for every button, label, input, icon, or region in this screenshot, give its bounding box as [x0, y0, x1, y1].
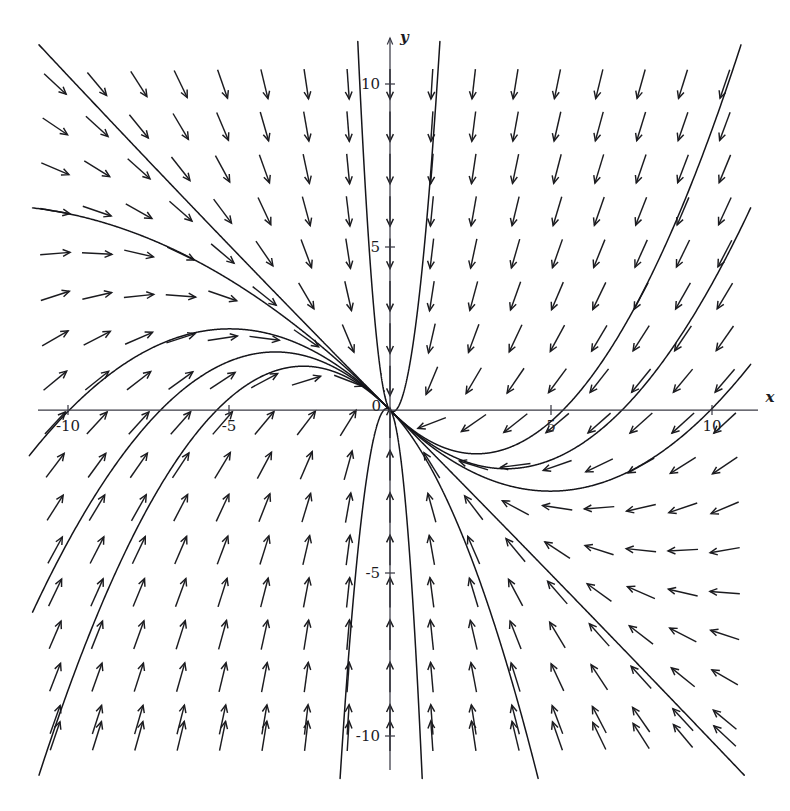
field-arrow [592, 325, 607, 351]
field-arrow [135, 722, 144, 751]
field-arrow [44, 74, 66, 94]
field-arrow [591, 665, 607, 690]
field-arrow [711, 502, 739, 514]
field-arrow [468, 324, 479, 352]
field-arrow [504, 414, 527, 433]
field-arrow [510, 239, 520, 268]
x-tick-label: -5 [222, 417, 237, 435]
field-arrow [635, 197, 646, 225]
field-arrow [49, 579, 62, 606]
field-arrow [176, 578, 187, 606]
field-arrow [304, 721, 311, 751]
field-arrow [218, 578, 228, 607]
field-arrow [629, 626, 653, 644]
field-arrow [594, 112, 603, 141]
field-arrow [468, 578, 478, 607]
field-arrow [426, 367, 438, 395]
field-arrow [44, 371, 67, 390]
field-arrow [589, 624, 609, 646]
field-arrow [166, 293, 196, 300]
field-arrow [427, 281, 434, 311]
field-arrow [215, 453, 231, 479]
solution-curve [39, 366, 390, 775]
field-arrow [631, 666, 651, 688]
field-arrow [552, 722, 563, 750]
field-arrow [509, 579, 523, 605]
field-arrow [345, 281, 353, 310]
field-arrow [428, 662, 435, 692]
direction-field-figure: -10-5510105-5-100xy [0, 0, 790, 811]
field-arrow [128, 159, 150, 179]
direction-field-canvas: -10-5510105-5-100xy [0, 0, 790, 811]
field-arrow [342, 324, 354, 352]
field-arrow [552, 154, 561, 183]
field-arrow [550, 622, 566, 648]
field-arrow [552, 197, 562, 226]
field-arrow [468, 536, 480, 564]
field-arrow [346, 535, 353, 565]
field-arrow [345, 154, 352, 184]
field-arrow [130, 453, 147, 478]
field-arrow [88, 453, 106, 477]
field-arrow [719, 155, 731, 183]
field-arrow [712, 670, 738, 685]
field-arrow [718, 240, 732, 267]
field-arrow [626, 546, 656, 553]
field-arrow [83, 206, 111, 217]
field-arrow [302, 197, 311, 226]
field-arrow [719, 112, 730, 140]
field-arrow [86, 116, 108, 136]
field-arrow [40, 250, 70, 257]
field-arrow [671, 668, 694, 687]
field-arrow [428, 721, 435, 751]
field-arrow [173, 114, 188, 140]
y-tick-label: -10 [356, 727, 380, 745]
field-arrow [424, 453, 440, 479]
field-arrow [304, 578, 312, 607]
field-arrow [593, 282, 606, 309]
field-arrow [636, 70, 645, 99]
solution-curve [390, 208, 751, 469]
field-arrow [716, 326, 733, 351]
field-arrow [302, 493, 312, 522]
field-arrow [712, 457, 737, 474]
field-arrow [469, 239, 477, 268]
field-arrow [548, 581, 568, 604]
field-arrow [129, 412, 149, 434]
axes-layer [38, 38, 758, 770]
field-arrow [84, 161, 109, 177]
field-arrow [627, 504, 656, 512]
field-arrow [509, 325, 522, 352]
field-arrow [469, 721, 476, 751]
field-arrow [260, 536, 270, 565]
field-arrow [593, 240, 605, 268]
field-arrow [260, 112, 270, 141]
field-arrow [174, 70, 187, 97]
field-arrow [510, 282, 521, 310]
field-arrow [710, 548, 740, 555]
field-arrow [262, 663, 270, 692]
field-arrow [550, 325, 564, 351]
field-arrow [41, 290, 70, 300]
field-arrow [131, 71, 147, 96]
field-arrow [134, 621, 145, 649]
field-arrow [510, 197, 519, 226]
field-arrow [594, 197, 605, 225]
field-arrow [630, 413, 652, 433]
solution-curve [29, 329, 390, 456]
field-arrow [124, 250, 153, 258]
field-arrow [134, 663, 144, 692]
field-arrow [677, 112, 688, 140]
field-arrow [510, 621, 522, 649]
field-arrow [552, 239, 563, 267]
solution-curve [358, 42, 390, 410]
field-arrow [586, 459, 613, 472]
field-arrow [41, 163, 69, 175]
field-arrow [465, 496, 483, 520]
field-arrow [346, 578, 353, 608]
field-arrow [511, 69, 518, 99]
field-arrow [427, 535, 434, 565]
field-arrow [717, 283, 732, 309]
field-arrow [346, 493, 353, 523]
field-arrow [346, 196, 353, 226]
